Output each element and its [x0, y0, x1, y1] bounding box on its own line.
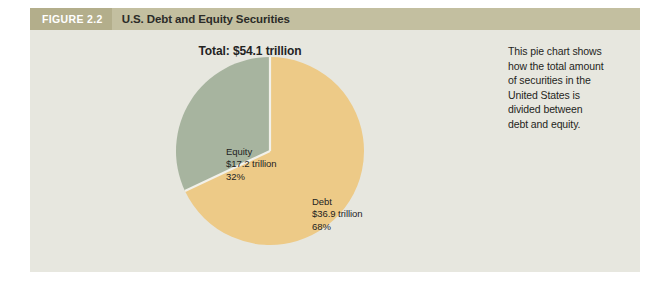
figure-number-label: FIGURE 2.2 [30, 8, 112, 30]
caption-line: of securities in the [508, 73, 648, 88]
figure-header-bar: FIGURE 2.2 U.S. Debt and Equity Securiti… [30, 8, 640, 30]
figure-page: FIGURE 2.2 U.S. Debt and Equity Securiti… [0, 0, 666, 288]
pie-label-debt-name: Debt [312, 196, 363, 208]
figure-panel: FIGURE 2.2 U.S. Debt and Equity Securiti… [30, 8, 640, 272]
pie-label-equity: Equity $17.2 trillion 32% [226, 146, 277, 183]
caption-line: debt and equity. [508, 117, 648, 132]
pie-label-equity-name: Equity [226, 146, 277, 158]
caption-line: United States is [508, 88, 648, 103]
figure-caption: This pie chart shows how the total amoun… [508, 44, 648, 132]
caption-line: how the total amount [508, 59, 648, 74]
pie-label-equity-value: $17.2 trillion [226, 158, 277, 170]
pie-label-debt: Debt $36.9 trillion 68% [312, 196, 363, 233]
pie-label-debt-value: $36.9 trillion [312, 208, 363, 220]
caption-line: This pie chart shows [508, 44, 648, 59]
pie-label-debt-percent: 68% [312, 221, 363, 233]
figure-title: U.S. Debt and Equity Securities [122, 13, 290, 25]
pie-label-equity-percent: 32% [226, 171, 277, 183]
chart-area: Total: $54.1 trillion Equity $17.2 trill… [30, 30, 490, 272]
caption-line: divided between [508, 102, 648, 117]
